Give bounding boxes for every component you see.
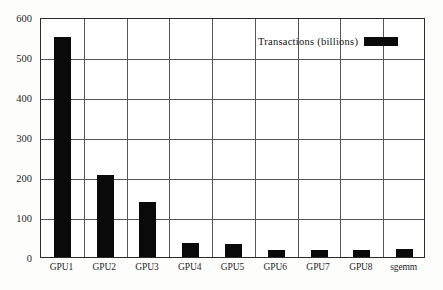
bar-GPU1 xyxy=(54,37,71,257)
bar-GPU8 xyxy=(353,250,370,257)
bar-chart: 0100200300400500600 Transactions (billio… xyxy=(0,0,443,290)
bar-GPU2 xyxy=(97,175,114,257)
y-tick-label-600: 600 xyxy=(16,13,32,24)
y-tick-label-400: 400 xyxy=(16,93,32,104)
gridline-x-3 xyxy=(169,19,170,257)
legend-label: Transactions (billions) xyxy=(258,36,358,47)
x-axis-tick-labels: GPU1GPU2GPU3GPU4GPU5GPU6GPU7GPU8sgemm xyxy=(0,262,443,278)
x-tick-label-GPU4: GPU4 xyxy=(178,262,201,272)
bar-sgemm xyxy=(396,249,413,257)
gridline-y-300 xyxy=(41,139,424,140)
y-tick-label-200: 200 xyxy=(16,173,32,184)
gridline-x-6 xyxy=(298,19,299,257)
x-tick-label-sgemm: sgemm xyxy=(390,262,417,272)
y-tick-label-300: 300 xyxy=(16,133,32,144)
legend-color-swatch xyxy=(364,37,398,46)
x-tick-label-GPU5: GPU5 xyxy=(221,262,244,272)
gridline-x-8 xyxy=(383,19,384,257)
x-tick-label-GPU6: GPU6 xyxy=(264,262,287,272)
x-tick-label-GPU8: GPU8 xyxy=(349,262,372,272)
x-tick-label-GPU3: GPU3 xyxy=(135,262,158,272)
y-axis-tick-labels: 0100200300400500600 xyxy=(0,0,36,290)
gridline-y-500 xyxy=(41,59,424,60)
bar-GPU5 xyxy=(225,244,242,257)
plot-area xyxy=(40,18,425,258)
y-tick-label-500: 500 xyxy=(16,53,32,64)
x-tick-label-GPU7: GPU7 xyxy=(306,262,329,272)
chart-legend: Transactions (billions) xyxy=(258,36,398,47)
gridline-x-2 xyxy=(127,19,128,257)
bar-GPU7 xyxy=(311,250,328,257)
x-tick-label-GPU1: GPU1 xyxy=(50,262,73,272)
gridline-x-1 xyxy=(84,19,85,257)
x-tick-label-GPU2: GPU2 xyxy=(92,262,115,272)
gridline-x-5 xyxy=(255,19,256,257)
gridline-x-7 xyxy=(340,19,341,257)
gridline-y-400 xyxy=(41,99,424,100)
bar-GPU3 xyxy=(139,202,156,257)
bar-GPU6 xyxy=(268,250,285,257)
y-tick-label-100: 100 xyxy=(16,213,32,224)
gridline-x-4 xyxy=(212,19,213,257)
bar-GPU4 xyxy=(182,243,199,257)
